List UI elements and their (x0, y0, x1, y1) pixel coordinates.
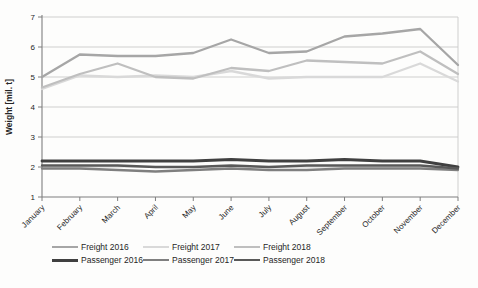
x-tick-label-may: May (181, 203, 198, 220)
y-tick-label-2: 2 (31, 163, 36, 172)
legend-label-passenger-2017: Passenger 2017 (172, 255, 234, 265)
y-axis-title: Weight [mil. t] (4, 79, 14, 135)
x-label-group-october: October (360, 203, 387, 230)
x-tick-label-october: October (360, 203, 387, 230)
series-line-passenger-2017 (42, 169, 458, 172)
x-label-group-july: July (257, 203, 273, 219)
legend-label-freight-2018: Freight 2018 (263, 242, 311, 252)
y-tick-label-5: 5 (31, 73, 36, 82)
legend-marker-freight-2018 (234, 246, 260, 248)
legend-item-freight-2017[interactable]: Freight 2017 (143, 242, 234, 252)
x-label-group-january: January (20, 203, 46, 229)
y-tick-label-6: 6 (31, 43, 36, 52)
legend-label-passenger-2018: Passenger 2018 (263, 255, 325, 265)
legend-marker-freight-2017 (143, 246, 169, 248)
y-tick-label-4: 4 (31, 103, 36, 112)
x-tick-label-april: April (142, 203, 160, 221)
x-tick-label-november: November (392, 203, 425, 236)
x-label-group-april: April (142, 203, 160, 221)
legend-item-passenger-2017[interactable]: Passenger 2017 (143, 255, 234, 265)
legend-item-passenger-2016[interactable]: Passenger 2016 (52, 255, 143, 265)
x-tick-label-august: August (287, 203, 312, 228)
y-axis-title-group: Weight [mil. t] (4, 79, 14, 135)
y-tick-label-7: 7 (31, 13, 36, 22)
x-label-group-march: March (100, 203, 122, 225)
line-chart: 1234567JanuaryFebruaryMarchAprilMayJuneJ… (0, 0, 478, 288)
legend-marker-passenger-2016 (52, 259, 78, 262)
chart-legend: Freight 2016Freight 2017Freight 2018Pass… (52, 242, 452, 265)
legend-label-passenger-2016: Passenger 2016 (81, 255, 143, 265)
legend-item-freight-2016[interactable]: Freight 2016 (52, 242, 143, 252)
legend-row-1: Freight 2016Freight 2017Freight 2018 (52, 242, 452, 252)
x-tick-label-july: July (257, 203, 273, 219)
legend-item-freight-2018[interactable]: Freight 2018 (234, 242, 325, 252)
y-tick-label-3: 3 (31, 133, 36, 142)
x-label-group-june: June (217, 203, 236, 222)
x-label-group-may: May (181, 203, 198, 220)
x-tick-label-september: September (315, 203, 349, 237)
x-tick-label-february: February (55, 203, 84, 232)
x-tick-label-june: June (217, 203, 236, 222)
x-tick-label-december: December (430, 203, 463, 236)
x-label-group-december: December (430, 203, 463, 236)
legend-marker-passenger-2017 (143, 259, 169, 261)
legend-item-passenger-2018[interactable]: Passenger 2018 (234, 255, 325, 265)
x-label-group-august: August (287, 203, 312, 228)
x-label-group-february: February (55, 203, 84, 232)
legend-label-freight-2017: Freight 2017 (172, 242, 220, 252)
x-label-group-november: November (392, 203, 425, 236)
legend-marker-passenger-2018 (234, 259, 260, 261)
x-label-group-september: September (315, 203, 349, 237)
y-tick-label-1: 1 (31, 193, 36, 202)
x-tick-label-january: January (20, 203, 46, 229)
legend-label-freight-2016: Freight 2016 (81, 242, 129, 252)
legend-row-2: Passenger 2016Passenger 2017Passenger 20… (52, 255, 452, 265)
x-tick-label-march: March (100, 203, 122, 225)
series-line-freight-2018 (42, 52, 458, 88)
legend-marker-freight-2016 (52, 246, 78, 248)
